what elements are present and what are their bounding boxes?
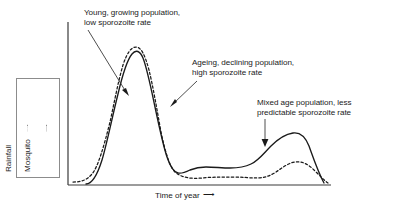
legend-label-rainfall: Rainfall	[0, 80, 19, 172]
annotation-ageing-declining-population: Ageing, declining population, high sporo…	[192, 58, 294, 79]
leader-mixed	[262, 119, 269, 147]
leader-young	[88, 30, 129, 96]
legend-item-mosquito: Mosquito	[38, 80, 58, 172]
solid-up-arrow-icon	[46, 106, 47, 150]
x-axis-label-text: Time of year	[155, 191, 200, 200]
figure-container: Rainfall Mosquito Young, growing populat…	[0, 0, 400, 210]
annotation-young-growing-population: Young, growing population, low sporozoit…	[84, 8, 180, 29]
leader-ageing	[170, 81, 197, 107]
legend-box: Rainfall Mosquito	[16, 78, 60, 178]
right-arrow-icon: ⟶	[203, 189, 214, 199]
legend-label-mosquito: Mosquito	[18, 80, 38, 172]
annotation-mixed-age-population: Mixed age population, less predictable s…	[257, 98, 352, 119]
x-axis-label: Time of year⟶	[155, 189, 214, 200]
